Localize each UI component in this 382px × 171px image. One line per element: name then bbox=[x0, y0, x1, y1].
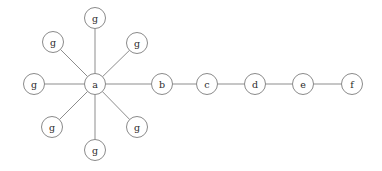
graph-node-b[interactable]: b bbox=[152, 74, 173, 95]
node-circle-g7[interactable] bbox=[85, 140, 106, 161]
node-circle-a[interactable] bbox=[85, 74, 106, 95]
graph-node-g6[interactable]: g bbox=[127, 117, 148, 138]
diagram-canvas: abcdefggggggg bbox=[0, 0, 382, 171]
node-circle-g6[interactable] bbox=[127, 117, 148, 138]
graph-node-g5[interactable]: g bbox=[42, 117, 63, 138]
graph-node-g7[interactable]: g bbox=[85, 140, 106, 161]
graph-node-g1[interactable]: g bbox=[85, 8, 106, 29]
node-circle-g3[interactable] bbox=[127, 33, 148, 54]
node-circle-g5[interactable] bbox=[42, 117, 63, 138]
node-circle-g1[interactable] bbox=[85, 8, 106, 29]
graph-svg: abcdefggggggg bbox=[0, 0, 382, 171]
graph-node-e[interactable]: e bbox=[293, 74, 314, 95]
node-circle-b[interactable] bbox=[152, 74, 173, 95]
graph-node-d[interactable]: d bbox=[245, 74, 266, 95]
graph-node-g3[interactable]: g bbox=[127, 33, 148, 54]
node-circle-c[interactable] bbox=[197, 74, 218, 95]
node-circle-g4[interactable] bbox=[24, 74, 45, 95]
graph-node-c[interactable]: c bbox=[197, 74, 218, 95]
node-circle-g2[interactable] bbox=[43, 32, 64, 53]
graph-node-g2[interactable]: g bbox=[43, 32, 64, 53]
node-circle-f[interactable] bbox=[342, 74, 363, 95]
node-circle-e[interactable] bbox=[293, 74, 314, 95]
graph-node-f[interactable]: f bbox=[342, 74, 363, 95]
graph-node-g4[interactable]: g bbox=[24, 74, 45, 95]
node-circle-d[interactable] bbox=[245, 74, 266, 95]
graph-node-a[interactable]: a bbox=[85, 74, 106, 95]
